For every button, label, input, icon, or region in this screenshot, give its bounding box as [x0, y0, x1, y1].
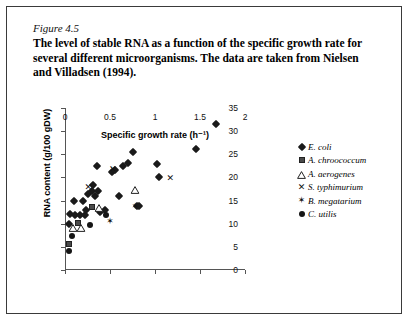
x-tick-label: 2	[243, 112, 248, 122]
data-point	[128, 148, 136, 156]
legend-marker-icon	[295, 211, 308, 217]
legend-label: A. aerogenes	[308, 169, 355, 179]
legend-label: S. typhimurium	[308, 182, 363, 192]
data-point	[103, 212, 109, 218]
legend-marker-icon	[295, 165, 308, 183]
data-point	[95, 198, 104, 216]
data-point	[69, 233, 75, 239]
figure-caption: Figure 4.5 The level of stable RNA as a …	[33, 21, 373, 80]
figure-frame: Figure 4.5 The level of stable RNA as a …	[6, 6, 402, 314]
plot-axes-area: 05101520253035 00.511.52 ✕✕✕✶✶ Specific …	[65, 108, 245, 270]
legend-label: E. coli	[308, 142, 332, 152]
y-tick-label: 20	[220, 172, 238, 182]
legend-item: E. coli	[295, 140, 366, 154]
x-tick-mark	[245, 270, 246, 274]
data-point	[79, 196, 87, 204]
y-tick-label: 15	[220, 196, 238, 206]
legend-label: C. utilis	[308, 209, 337, 219]
y-tick-mark	[61, 154, 65, 155]
legend-marker-icon: ✕	[295, 183, 308, 192]
legend-item: A. aerogenes	[295, 167, 366, 181]
data-point	[66, 248, 72, 254]
y-tick-label: 25	[220, 149, 238, 159]
data-point	[87, 222, 93, 228]
legend-marker-icon	[295, 144, 308, 150]
data-point	[153, 160, 161, 168]
legend-item: C. utilis	[295, 208, 366, 222]
x-axis-label: Specific growth rate (h⁻¹)	[65, 130, 245, 140]
y-tick-label: 35	[220, 103, 238, 113]
legend-marker-icon	[295, 157, 308, 163]
y-tick-mark	[61, 108, 65, 109]
y-axis-label: RNA content (g/100 gDW)	[42, 103, 52, 223]
data-point: ✕	[85, 182, 93, 191]
data-point	[66, 241, 72, 247]
y-tick-label: 5	[220, 242, 238, 252]
data-point: ✕	[167, 173, 175, 182]
data-point	[77, 218, 86, 236]
y-tick-mark	[61, 201, 65, 202]
y-tick-label: 10	[220, 219, 238, 229]
data-point	[154, 172, 162, 180]
figure-caption-text: The level of stable RNA as a function of…	[33, 36, 373, 80]
chart-legend: E. coliA. chroococcumA. aerogenes✕S. typ…	[295, 140, 366, 221]
data-point: ✕	[109, 164, 117, 173]
legend-label: A. chroococcum	[308, 155, 366, 165]
x-tick-mark	[155, 270, 156, 274]
data-point	[92, 162, 100, 170]
y-tick-mark	[61, 177, 65, 178]
data-point: ✶	[131, 202, 139, 211]
x-tick-mark	[65, 270, 66, 274]
x-tick-label: 1	[153, 112, 158, 122]
legend-marker-icon: ✶	[295, 196, 308, 205]
legend-label: B. megatarium	[308, 196, 362, 206]
x-tick-label: 0.5	[104, 112, 116, 122]
x-tick-label: 1.5	[194, 112, 206, 122]
figure-number: Figure 4.5	[33, 21, 373, 35]
data-point	[191, 145, 199, 153]
data-point: ✶	[106, 216, 114, 225]
data-point	[131, 180, 140, 198]
legend-item: ✶B. megatarium	[295, 194, 366, 208]
data-point	[115, 192, 123, 200]
x-tick-label: 0	[63, 112, 68, 122]
x-tick-mark	[200, 270, 201, 274]
x-tick-mark	[110, 270, 111, 274]
data-point	[70, 196, 78, 204]
y-tick-mark	[61, 247, 65, 248]
y-tick-label: 0	[220, 265, 238, 275]
